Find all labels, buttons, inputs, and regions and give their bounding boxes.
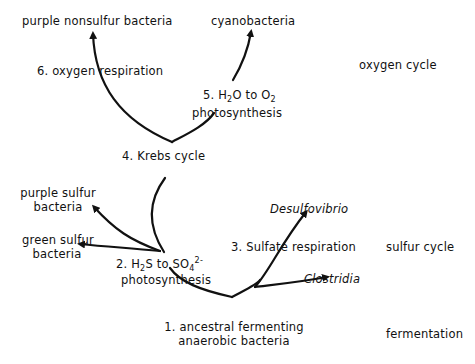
label-fermentation: fermentation xyxy=(386,327,463,341)
label-purple-nonsulfur-bacteria: purple nonsulfur bacteria xyxy=(22,14,173,28)
label-oxygen-respiration: 6. oxygen respiration xyxy=(37,64,163,78)
branch-ancestral-to-sulfate xyxy=(232,280,260,297)
label-cyanobacteria: cyanobacteria xyxy=(211,14,295,28)
label-h2o-to-o2: 5. H2O to O2 xyxy=(203,88,276,102)
label-sulfate-respiration: 3. Sulfate respiration xyxy=(231,240,356,254)
arrow-to-cyanobacteria xyxy=(233,32,251,80)
arrow-to-purple-sulfur xyxy=(94,207,160,251)
label-clostridia: Clostridia xyxy=(304,272,360,286)
label-ancestral-fermenting-bacteria: 1. ancestral fermenting anaerobic bacter… xyxy=(160,320,308,348)
label-oxygen-cycle: oxygen cycle xyxy=(359,58,437,72)
label-h2s-to-so4: 2. H2S to SO42- xyxy=(116,257,203,271)
label-green-sulfur-bacteria: green sulfur bacteria xyxy=(22,233,92,261)
label-desulfovibrio: Desulfovibrio xyxy=(270,202,348,216)
label-h2o-photosynthesis: photosynthesis xyxy=(192,106,282,120)
label-h2s-photosynthesis: photosynthesis xyxy=(121,273,211,287)
label-sulfur-cycle: sulfur cycle xyxy=(386,240,454,254)
label-purple-sulfur-bacteria: purple sulfur bacteria xyxy=(20,186,96,214)
label-krebs-cycle: 4. Krebs cycle xyxy=(122,149,205,163)
tree-branches xyxy=(0,0,475,364)
branch-h2s-to-krebs xyxy=(152,178,165,252)
arrow-to-purple-nonsulfur xyxy=(93,34,172,142)
